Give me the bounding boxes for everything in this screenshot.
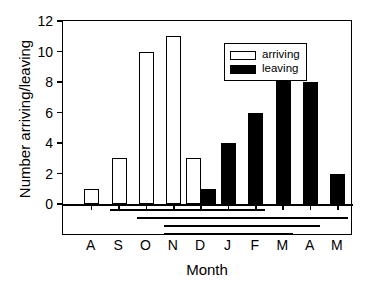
y-tick: 8 xyxy=(57,81,63,83)
x-tick xyxy=(91,204,93,210)
bar-arriving-O-2 xyxy=(139,52,154,205)
y-tick: 10 xyxy=(57,51,63,53)
x-tick xyxy=(282,204,284,210)
bar-leaving-D-4 xyxy=(201,189,216,204)
legend-swatch-leaving xyxy=(230,65,256,74)
bar-chart-figure: Number arriving/leaving 024681012 arrivi… xyxy=(0,0,366,291)
span-line-1 xyxy=(110,209,266,211)
bar-leaving-F-6 xyxy=(248,113,263,205)
span-line-4 xyxy=(164,233,293,235)
x-tick-label: F xyxy=(251,238,260,252)
plot-area: 024681012 arrivingleaving xyxy=(62,20,352,235)
y-tick: 6 xyxy=(57,112,63,114)
x-tick xyxy=(337,204,339,210)
y-tick: 2 xyxy=(57,173,63,175)
y-tick-label: 4 xyxy=(45,136,53,150)
y-tick-label: 6 xyxy=(45,106,53,120)
bar-leaving-J-5 xyxy=(221,143,236,204)
span-line-2 xyxy=(137,217,348,219)
bar-leaving-M-9 xyxy=(330,174,345,205)
x-tick-label: J xyxy=(224,238,231,252)
y-tick: 4 xyxy=(57,142,63,144)
x-tick-label: D xyxy=(195,238,205,252)
y-tick-label: 12 xyxy=(37,14,53,28)
y-tick-label: 0 xyxy=(45,197,53,211)
chart-legend: arrivingleaving xyxy=(224,43,307,81)
legend-swatch-arriving xyxy=(230,51,256,60)
bar-leaving-A-8 xyxy=(303,82,318,204)
span-line-3 xyxy=(164,225,320,227)
y-axis-title: Number arriving/leaving xyxy=(14,4,36,234)
x-tick-label: O xyxy=(140,238,151,252)
y-tick: 12 xyxy=(57,20,63,22)
legend-row-leaving: leaving xyxy=(230,62,300,76)
x-tick-label: N xyxy=(168,238,178,252)
y-tick-label: 8 xyxy=(45,75,53,89)
x-tick xyxy=(310,204,312,210)
bar-arriving-N-3 xyxy=(166,36,181,204)
legend-row-arriving: arriving xyxy=(230,48,300,62)
x-tick-label: M xyxy=(331,238,343,252)
bar-arriving-S-1 xyxy=(112,158,127,204)
x-axis-title: Month xyxy=(62,262,352,277)
x-tick-label: M xyxy=(276,238,288,252)
bar-arriving-D-4 xyxy=(186,158,201,204)
bar-arriving-A-0 xyxy=(84,189,99,204)
y-tick-label: 2 xyxy=(45,167,53,181)
x-tick-label: A xyxy=(305,238,314,252)
legend-label-leaving: leaving xyxy=(262,63,298,75)
legend-label-arriving: arriving xyxy=(262,49,300,61)
x-tick-label: S xyxy=(113,238,122,252)
y-tick: 0 xyxy=(57,203,63,205)
x-tick-label: A xyxy=(86,238,95,252)
y-tick-label: 10 xyxy=(37,45,53,59)
